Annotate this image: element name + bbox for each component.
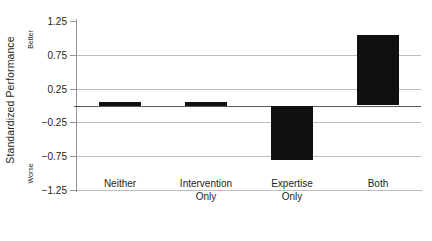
- y-axis-tick: [70, 21, 76, 22]
- x-axis-tick-label-line1: Neither: [104, 178, 136, 189]
- x-axis-tick-label: Both: [335, 178, 421, 191]
- bar: [357, 35, 399, 105]
- y-axis-tick: [70, 156, 76, 157]
- x-axis-tick-label-line2: Only: [163, 191, 249, 204]
- y-axis-tick-label: 0.25: [33, 83, 67, 94]
- x-axis-tick-label: Neither: [77, 178, 163, 191]
- bar: [185, 102, 227, 106]
- bar: [99, 102, 141, 106]
- annotation-better-text: Better: [27, 30, 34, 49]
- plot-area: 1.250.750.25−0.25−0.75−1.25: [77, 21, 421, 190]
- y-axis-tick: [70, 89, 76, 90]
- y-axis-title: Standardized Performance: [0, 0, 20, 200]
- x-axis-tick-label: InterventionOnly: [163, 178, 249, 203]
- x-axis-tick-label-line1: Both: [368, 178, 389, 189]
- bar: [271, 106, 313, 160]
- gridline: [77, 156, 421, 157]
- y-axis-tick: [70, 190, 76, 191]
- x-axis-tick-label-line1: Intervention: [180, 178, 232, 189]
- y-axis-tick: [70, 122, 76, 123]
- x-axis-tick-label-line2: Only: [249, 191, 335, 204]
- x-axis-tick-label: ExpertiseOnly: [249, 178, 335, 203]
- x-axis-tick-label-line1: Expertise: [271, 178, 313, 189]
- zero-line: [74, 106, 421, 107]
- y-axis-tick-label: 1.25: [33, 16, 67, 27]
- y-axis-tick-label: 0.75: [33, 49, 67, 60]
- y-axis-tick: [70, 55, 76, 56]
- y-axis-title-text: Standardized Performance: [4, 36, 16, 163]
- annotation-worse-text: Worse: [27, 163, 34, 183]
- y-axis-tick-label: −0.75: [33, 151, 67, 162]
- y-axis-tick-label: −1.25: [33, 185, 67, 196]
- gridline: [77, 122, 421, 123]
- y-axis-tick-label: −0.25: [33, 117, 67, 128]
- chart-figure: Standardized Performance Better Worse 1.…: [0, 0, 432, 241]
